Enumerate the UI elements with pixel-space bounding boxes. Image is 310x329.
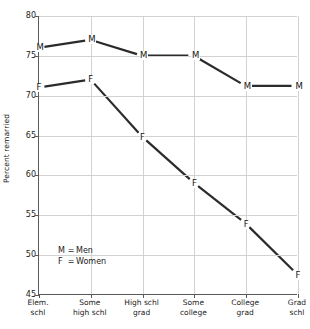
- legend-equals-sign: =: [66, 256, 76, 267]
- y-tick-label: 70: [2, 92, 36, 100]
- series-line-segment: [249, 227, 293, 270]
- legend-marker: M: [58, 245, 66, 256]
- y-tick-mark: [35, 215, 39, 216]
- x-tick-label-line1: Elem.: [27, 298, 48, 307]
- y-tick-label: 60: [2, 171, 36, 179]
- gridline-horizontal: [39, 56, 297, 57]
- x-tick-label-line1: Some: [183, 298, 204, 307]
- legend-label: Women: [76, 257, 106, 266]
- y-tick-mark: [35, 96, 39, 97]
- gridline-horizontal: [39, 175, 297, 176]
- x-tick-label-line1: Grad: [288, 298, 306, 307]
- gridline-vertical: [298, 16, 299, 294]
- y-tick-mark: [35, 175, 39, 176]
- legend-entry: F=Women: [58, 256, 106, 267]
- chart-legend: M=MenF=Women: [58, 245, 106, 267]
- y-tick-label: 55: [2, 211, 36, 219]
- gridline-horizontal: [39, 215, 297, 216]
- y-tick-mark: [35, 136, 39, 137]
- x-tick-label-line1: College: [231, 298, 259, 307]
- series-line-segment: [146, 140, 189, 179]
- x-tick-label: Gradschl: [258, 298, 310, 318]
- y-tick-mark: [35, 255, 39, 256]
- series-line-segment: [44, 41, 85, 47]
- series-line-segment: [199, 58, 241, 83]
- gridline-vertical: [194, 16, 195, 294]
- x-tick-label-line1: Some: [79, 298, 100, 307]
- legend-marker: F: [58, 256, 66, 267]
- legend-label: Men: [76, 246, 93, 255]
- y-tick-label: 65: [2, 132, 36, 140]
- x-tick-label-line2: schl: [258, 308, 310, 318]
- y-axis-tick-labels: 4550556065707580: [0, 16, 36, 295]
- series-line-segment: [44, 80, 85, 86]
- legend-entry: M=Men: [58, 245, 106, 256]
- gridline-vertical: [246, 16, 247, 294]
- gridline-horizontal: [39, 96, 297, 97]
- gridline-horizontal: [39, 136, 297, 137]
- y-tick-label: 75: [2, 52, 36, 60]
- y-tick-label: 50: [2, 251, 36, 259]
- series-line-segment: [94, 84, 138, 133]
- y-tick-label: 80: [2, 12, 36, 20]
- chart-figure: Percent remarried 4550556065707580 MMMMM…: [0, 0, 310, 329]
- y-tick-mark: [35, 16, 39, 17]
- gridline-vertical: [143, 16, 144, 294]
- x-axis-tick-labels: Elem.schlSomehigh schlHigh schlgradSomec…: [38, 298, 297, 328]
- legend-equals-sign: =: [66, 245, 76, 256]
- gridline-horizontal: [39, 16, 297, 17]
- series-line-segment: [96, 41, 137, 54]
- y-tick-mark: [35, 56, 39, 57]
